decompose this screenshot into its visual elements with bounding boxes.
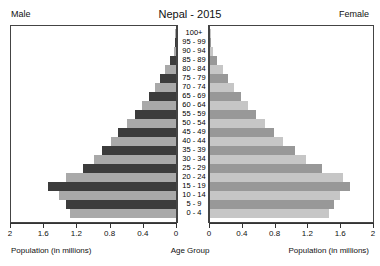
bar-segment <box>111 137 176 146</box>
age-group-label: 20 - 24 <box>178 172 210 181</box>
age-group-label: 15 - 19 <box>178 181 210 190</box>
age-group-label: 5 - 9 <box>178 199 210 208</box>
axis-tick <box>373 224 374 228</box>
female-bar <box>210 92 373 101</box>
bar-segment <box>210 128 274 137</box>
bar-segment <box>210 164 322 173</box>
bar-segment <box>210 146 295 155</box>
bar-segment <box>210 110 256 119</box>
age-group-label: 80 - 84 <box>178 64 210 73</box>
axis-tick-label: 2 <box>371 229 375 238</box>
female-bar <box>210 182 373 191</box>
axis-tick-label: 0.4 <box>137 229 148 238</box>
female-bar <box>210 74 373 83</box>
bar-segment <box>210 29 211 38</box>
axis-tick <box>10 224 11 228</box>
male-bar <box>11 92 176 101</box>
bar-segment <box>210 191 340 200</box>
chart-header: Male Nepal - 2015 Female <box>0 9 380 23</box>
axis-tick <box>176 224 177 228</box>
male-bar <box>11 128 176 137</box>
female-bars <box>210 26 373 222</box>
female-bar <box>210 173 373 182</box>
axis-tick-label: 1.2 <box>71 229 82 238</box>
bar-segment <box>170 56 176 65</box>
bar-segment <box>66 173 176 182</box>
bar-segment <box>210 119 265 128</box>
male-x-axis: 21.61.20.80.40 <box>10 223 177 230</box>
male-plot-panel <box>10 25 177 223</box>
female-bar <box>210 209 373 218</box>
bar-segment <box>66 200 176 209</box>
female-bar <box>210 128 373 137</box>
male-bar <box>11 191 176 200</box>
age-group-label: 60 - 64 <box>178 100 210 109</box>
age-group-label-column: 100+95 - 9990 - 9485 - 8980 - 8475 - 797… <box>177 25 209 223</box>
age-group-label: 10 - 14 <box>178 190 210 199</box>
female-x-axis: 00.40.81.21.62 <box>209 223 374 230</box>
female-bar <box>210 164 373 173</box>
age-group-label: 75 - 79 <box>178 73 210 82</box>
male-bar <box>11 173 176 182</box>
female-bar <box>210 65 373 74</box>
male-bar <box>11 29 176 38</box>
axis-tick-label: 0 <box>174 229 178 238</box>
bar-segment <box>210 209 329 218</box>
age-group-label: 65 - 69 <box>178 91 210 100</box>
bar-segment <box>102 146 176 155</box>
bar-segment <box>149 92 176 101</box>
age-group-label: 50 - 54 <box>178 118 210 127</box>
bar-segment <box>160 74 176 83</box>
bar-segment <box>210 65 223 74</box>
male-bar <box>11 56 176 65</box>
female-bar <box>210 146 373 155</box>
axis-tick <box>340 224 341 228</box>
female-bar <box>210 29 373 38</box>
male-bar <box>11 65 176 74</box>
female-plot-panel <box>209 25 374 223</box>
female-bar <box>210 38 373 47</box>
bar-segment <box>210 101 248 110</box>
bar-segment <box>210 182 350 191</box>
female-bar <box>210 191 373 200</box>
male-bar <box>11 74 176 83</box>
bar-segment <box>127 119 177 128</box>
female-bar <box>210 200 373 209</box>
axis-tick-label: 0.8 <box>269 229 280 238</box>
bar-segment <box>175 38 176 47</box>
male-bar <box>11 155 176 164</box>
age-group-label: 25 - 29 <box>178 163 210 172</box>
male-bars <box>11 26 176 222</box>
axis-tick-label: 0 <box>207 229 211 238</box>
axis-tick <box>307 224 308 228</box>
female-bar <box>210 83 373 92</box>
axis-tick-label: 1.6 <box>38 229 49 238</box>
male-bar <box>11 83 176 92</box>
male-bar <box>11 164 176 173</box>
age-group-label: 70 - 74 <box>178 82 210 91</box>
female-axis-title: Population (in millions) <box>289 246 369 255</box>
bar-segment <box>210 155 306 164</box>
bar-segment <box>48 182 176 191</box>
male-bar <box>11 38 176 47</box>
bar-segment <box>175 29 176 38</box>
bar-segment <box>210 92 241 101</box>
age-group-label: 100+ <box>178 28 210 37</box>
age-group-label: 90 - 94 <box>178 46 210 55</box>
female-bar <box>210 56 373 65</box>
bar-segment <box>210 137 283 146</box>
female-bar <box>210 47 373 56</box>
age-group-label: 95 - 99 <box>178 37 210 46</box>
bar-segment <box>59 191 176 200</box>
axis-tick <box>209 224 210 228</box>
axis-tick-label: 1.2 <box>302 229 313 238</box>
age-group-label: 0 - 4 <box>178 208 210 217</box>
male-bar <box>11 47 176 56</box>
female-bar <box>210 119 373 128</box>
axis-tick-label: 1.6 <box>335 229 346 238</box>
female-bar <box>210 137 373 146</box>
bar-segment <box>210 200 334 209</box>
age-group-label: 55 - 59 <box>178 109 210 118</box>
age-group-label: 45 - 49 <box>178 127 210 136</box>
female-bar <box>210 110 373 119</box>
